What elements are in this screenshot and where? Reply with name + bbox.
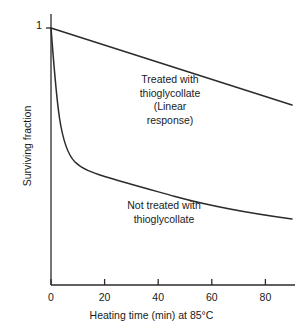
- x-axis-title: Heating time (min) at 85°C: [0, 309, 303, 321]
- annotation-untreated-line-1: Not treated with: [102, 199, 226, 213]
- y-axis-title: Surviving fraction: [21, 66, 33, 226]
- annotation-treated: Treated with thioglycollate (Linear resp…: [110, 73, 230, 127]
- plot-area: [0, 0, 303, 334]
- x-tick-label-20: 20: [91, 291, 119, 303]
- annotation-untreated-line-2: thioglycollate: [102, 213, 226, 227]
- survival-curve-chart: 1 0 20 40 60 80 Treated with thioglycoll…: [0, 0, 303, 334]
- annotation-treated-line-4: response): [110, 114, 230, 128]
- x-tick-label-60: 60: [198, 291, 226, 303]
- y-tick-label-1: 1: [36, 19, 42, 31]
- x-tick-label-80: 80: [251, 291, 279, 303]
- x-tick-label-40: 40: [144, 291, 172, 303]
- annotation-treated-line-1: Treated with: [110, 73, 230, 87]
- x-tick-label-0: 0: [37, 291, 65, 303]
- annotation-untreated: Not treated with thioglycollate: [102, 199, 226, 226]
- annotation-treated-line-3: (Linear: [110, 100, 230, 114]
- annotation-treated-line-2: thioglycollate: [110, 87, 230, 101]
